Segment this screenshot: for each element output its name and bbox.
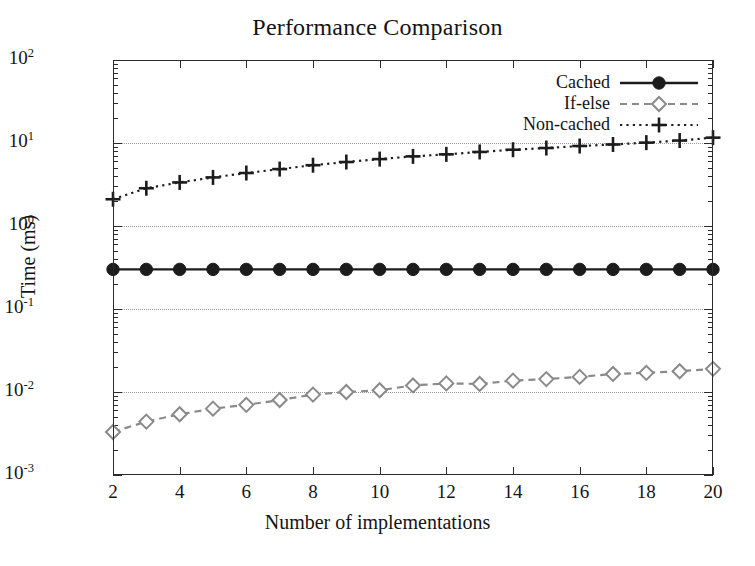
chart-title: Performance Comparison — [0, 14, 755, 41]
y-axis-tick-label: 10-2 — [5, 379, 34, 401]
x-axis-tick-label: 6 — [242, 481, 252, 503]
x-axis-tick-label: 18 — [637, 481, 656, 503]
x-axis-tick-label: 14 — [504, 481, 523, 503]
y-axis-tick-label: 10-3 — [5, 462, 34, 484]
x-axis-title: Number of implementations — [0, 511, 755, 534]
legend-item-cached: Cached — [494, 72, 700, 93]
legend: CachedIf-elseNon-cached — [494, 72, 700, 135]
data-point-filled-circle — [653, 76, 665, 88]
legend-sample — [618, 116, 700, 134]
legend-glyph-icon — [618, 116, 700, 134]
data-point-plus — [652, 117, 667, 132]
legend-sample — [618, 95, 700, 113]
x-axis-tick — [713, 60, 714, 68]
x-axis-tick-label: 20 — [704, 481, 723, 503]
x-axis-tick-label: 8 — [308, 481, 318, 503]
y-axis-tick-label: 101 — [9, 130, 34, 152]
x-axis-tick-label: 10 — [370, 481, 389, 503]
y-axis-tick — [113, 475, 122, 476]
y-axis-tick — [704, 475, 713, 476]
legend-label: Cached — [556, 72, 618, 93]
x-axis-tick-label: 2 — [108, 481, 118, 503]
y-axis-title: Time (ms) — [17, 117, 40, 397]
data-point-open-diamond — [652, 97, 666, 111]
legend-glyph-icon — [618, 95, 700, 113]
y-axis-tick-label: 100 — [9, 213, 34, 235]
x-axis-tick — [713, 467, 714, 475]
legend-sample — [618, 74, 700, 92]
legend-glyph-icon — [618, 74, 700, 92]
x-axis-tick-label: 16 — [570, 481, 589, 503]
y-axis-tick-label: 10-1 — [5, 296, 34, 318]
legend-label: Non-cached — [523, 114, 618, 135]
legend-label: If-else — [564, 93, 618, 114]
x-axis-tick-label: 4 — [175, 481, 185, 503]
legend-item-non-cached: Non-cached — [494, 114, 700, 135]
chart-figure: Performance Comparison Time (ms) Number … — [0, 0, 755, 566]
x-axis-tick-label: 12 — [437, 481, 456, 503]
legend-item-if-else: If-else — [494, 93, 700, 114]
y-axis-tick-label: 102 — [9, 47, 34, 69]
